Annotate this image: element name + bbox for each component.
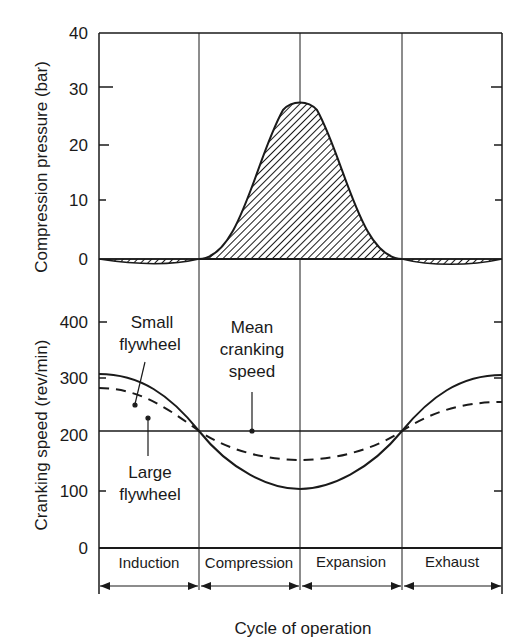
tick-label: 30 (69, 80, 88, 99)
pressure-tick-labels: 40 30 20 10 0 (69, 24, 88, 269)
small-flywheel-label: Small (131, 313, 174, 332)
mean-speed-label: Mean (231, 318, 274, 337)
large-flywheel-label: flywheel (119, 485, 180, 504)
pressure-panel: 40 30 20 10 0 Compression pressure (bar) (32, 24, 502, 590)
x-axis-label: Cycle of operation (234, 619, 371, 638)
large-flywheel-label: Large (128, 463, 171, 482)
phase-label-compression: Compression (205, 554, 293, 571)
tick-label: 40 (69, 24, 88, 43)
tick-label: 300 (60, 369, 88, 388)
speed-panel: 400 300 200 100 0 Cranking speed (rev/mi… (32, 313, 502, 558)
tick-label: 0 (79, 250, 88, 269)
tick-label: 400 (60, 313, 88, 332)
compression-pressure-area (199, 103, 402, 260)
phase-label-expansion: Expansion (316, 553, 386, 570)
exhaust-pressure-dip (402, 259, 502, 264)
engine-cranking-figure: 40 30 20 10 0 Compression pressure (bar)… (0, 0, 526, 644)
speed-axis-label: Cranking speed (rev/min) (32, 340, 51, 531)
mean-speed-label: cranking (220, 340, 284, 359)
small-flywheel-label: flywheel (119, 335, 180, 354)
tick-label: 20 (69, 136, 88, 155)
tick-label: 200 (60, 426, 88, 445)
phase-label-induction: Induction (119, 554, 180, 571)
speed-tick-labels: 400 300 200 100 0 (60, 313, 88, 558)
mean-speed-label: speed (229, 362, 275, 381)
tick-label: 0 (79, 539, 88, 558)
tick-label: 10 (69, 191, 88, 210)
annotations: Small flywheel Large flywheel Mean crank… (119, 313, 284, 504)
phase-labels: Induction Compression Expansion Exhaust (119, 553, 480, 571)
tick-label: 100 (60, 482, 88, 501)
pressure-axis-label: Compression pressure (bar) (32, 61, 51, 273)
phase-label-exhaust: Exhaust (425, 553, 480, 570)
